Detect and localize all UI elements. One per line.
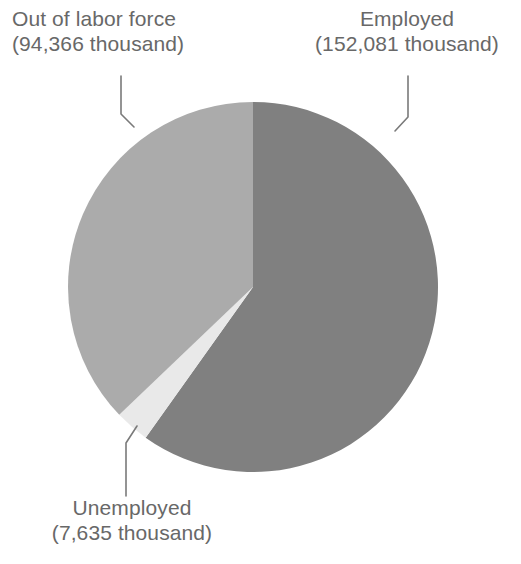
slice-label-out-of-labor-force-name: Out of labor force	[12, 6, 184, 31]
slice-label-employed-name: Employed	[296, 6, 518, 31]
slice-label-out-of-labor-force-value: (94,366 thousand)	[12, 31, 184, 56]
pie-chart-figure: Out of labor force (94,366 thousand) Emp…	[0, 0, 521, 564]
slice-label-employed-value: (152,081 thousand)	[296, 31, 518, 56]
slice-label-unemployed-name: Unemployed	[28, 495, 236, 520]
pie-chart-graphic	[0, 0, 521, 564]
leader-line-out-of-labor-force	[121, 76, 134, 127]
leader-line-employed	[395, 76, 408, 131]
leader-line-unemployed	[126, 426, 137, 496]
pie-slices	[68, 102, 438, 472]
slice-label-employed: Employed (152,081 thousand)	[296, 6, 518, 56]
slice-label-unemployed: Unemployed (7,635 thousand)	[28, 495, 236, 545]
slice-label-unemployed-value: (7,635 thousand)	[28, 520, 236, 545]
slice-label-out-of-labor-force: Out of labor force (94,366 thousand)	[12, 6, 184, 56]
